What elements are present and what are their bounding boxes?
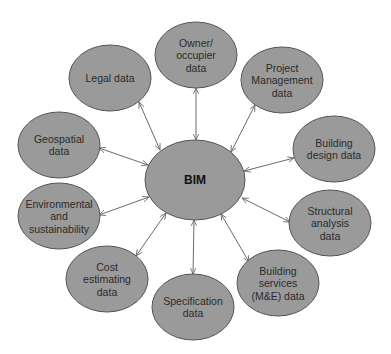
connector-building-services <box>221 214 249 262</box>
node-label: Geospatial <box>34 133 84 145</box>
node-structural-analysis: Structuralanalysisdata <box>289 190 371 256</box>
node-label: Specification <box>163 295 223 307</box>
node-building-design: Buildingdesign data <box>293 116 375 182</box>
node-label: Legal data <box>85 72 134 84</box>
node-label: data <box>183 307 204 319</box>
node-label: data <box>320 230 341 242</box>
node-label: data <box>272 87 293 99</box>
connector-environmental <box>99 197 149 215</box>
connector-project-management <box>231 105 255 152</box>
node-label: data <box>49 145 70 157</box>
node-label: analysis <box>311 217 349 229</box>
connector-structural-analysis <box>242 198 290 222</box>
node-building-services: Buildingservices(M&E) data <box>237 250 319 316</box>
node-label: Building <box>315 137 353 149</box>
node-specification: Specificationdata <box>152 274 234 340</box>
node-label: occupier <box>176 49 216 61</box>
node-label: Cost <box>96 261 118 273</box>
node-geospatial: Geospatialdata <box>18 112 100 178</box>
node-label: Building <box>259 265 297 277</box>
bim-diagram: Owner/occupierdataProjectManagementdataB… <box>0 0 391 354</box>
node-label: and <box>50 210 68 222</box>
node-label: data <box>186 62 207 74</box>
node-label: Structural <box>308 205 353 217</box>
node-owner-occupier: Owner/occupierdata <box>155 22 237 88</box>
connector-specification <box>193 220 194 274</box>
node-project-management: ProjectManagementdata <box>241 47 323 113</box>
connector-cost-estimating <box>136 213 166 256</box>
node-label: design data <box>307 149 361 161</box>
node-label: Environmental <box>25 198 92 210</box>
node-cost-estimating: Costestimatingdata <box>66 246 148 312</box>
node-label: Project <box>266 62 299 74</box>
node-label: data <box>97 286 118 298</box>
node-legal: Legal data <box>69 45 151 111</box>
connector-building-design <box>244 158 294 171</box>
node-label: Management <box>251 74 312 86</box>
node-label: (M&E) data <box>251 290 304 302</box>
node-label: sustainability <box>29 223 90 235</box>
center-node: BIM <box>145 140 245 220</box>
diagram-canvas: Owner/occupierdataProjectManagementdataB… <box>0 0 391 354</box>
node-environmental: Environmentalandsustainability <box>18 183 100 249</box>
connector-geospatial <box>99 148 148 165</box>
connector-legal <box>139 102 160 150</box>
node-label: services <box>259 277 298 289</box>
node-label: Owner/ <box>179 37 213 49</box>
center-label: BIM <box>184 173 206 187</box>
node-label: estimating <box>83 273 131 285</box>
